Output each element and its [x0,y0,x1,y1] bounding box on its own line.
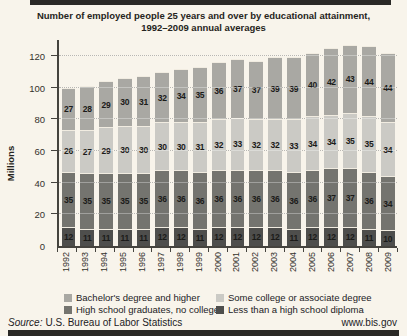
segment-value-label: 32 [252,140,261,150]
x-tick-label-2003: 2003 [265,252,284,288]
x-tick-label-2001: 2001 [227,252,246,288]
segment: 36 [231,170,245,227]
segment-value-label: 33 [233,139,242,149]
segment-value-label: 11 [83,233,91,243]
segment-value-label: 36 [289,196,298,206]
segment-value-label: 12 [233,232,242,242]
segment: 33 [231,118,245,170]
top-border-rule [30,0,391,5]
legend-label: Some college or associate degree [228,292,372,304]
legend-label: High school graduates, no college [76,304,219,316]
source-text: U.S. Bureau of Labor Statistics [45,317,182,328]
x-tick-label-1996: 1996 [133,252,152,288]
bar-1996: 11353031 [137,76,151,246]
segment: 40 [306,53,320,116]
segment-value-label: 11 [196,233,204,243]
x-tick-label-1994: 1994 [95,252,114,288]
segment: 35 [80,173,94,228]
segment-value-label: 35 [102,196,111,206]
segment-value-label: 35 [364,139,373,149]
x-tick-mark [397,248,398,252]
segment-value-label: 44 [364,77,373,87]
segment-value-label: 12 [64,232,73,242]
bar-1993: 11352728 [80,86,94,246]
y-tick-label-60: 60 [34,146,45,157]
segment-value-label: 40 [308,80,317,90]
bar-2001: 12363337 [231,59,245,246]
segment: 35 [62,172,76,227]
y-tick-label-120: 120 [29,51,45,62]
segment-value-label: 32 [158,93,167,103]
y-tick-label-100: 100 [29,83,45,94]
x-tick-label-1993: 1993 [76,252,95,288]
bar-2005: 12363440 [306,53,320,246]
legend-item: Bachelor's degree and higher [64,292,216,304]
segment: 35 [99,173,113,228]
segment-value-label: 12 [308,232,317,242]
segment-value-label: 30 [177,142,186,152]
x-tick-label-1998: 1998 [170,252,189,288]
segment-value-label: 37 [233,84,242,94]
bottom-border-rule [8,330,399,336]
segment: 11 [287,229,301,246]
x-tick-label-1992: 1992 [57,252,76,288]
segment: 37 [249,61,263,120]
legend-item: Less than a high school diploma [216,304,407,316]
chart-title: Number of employed people 25 years and o… [0,10,407,34]
segment-value-label: 35 [64,195,73,205]
segment: 36 [155,170,169,227]
bar-2009: 10343444 [381,53,395,246]
segment-value-label: 11 [121,233,129,243]
legend-label: Bachelor's degree and higher [76,292,200,304]
segment-value-label: 35 [120,196,129,206]
chart-title-line2: 1992–2009 annual averages [0,22,407,34]
segment: 30 [155,122,169,170]
segment-value-label: 34 [327,137,336,147]
segment-value-label: 26 [64,146,73,156]
segment-value-label: 35 [83,196,92,206]
segment-value-label: 42 [327,77,336,87]
segment-value-label: 43 [346,74,355,84]
legend-swatch-icon [64,306,72,314]
segment-value-label: 12 [252,232,261,242]
segment-value-label: 35 [195,90,204,100]
x-tick-label-2007: 2007 [340,252,359,288]
segment: 11 [137,229,151,246]
legend-swatch-icon [216,306,224,314]
segment-value-label: 12 [177,232,186,242]
segment-value-label: 30 [120,97,129,107]
segment-value-label: 36 [214,194,223,204]
segment: 39 [287,57,301,119]
segment: 29 [99,127,113,173]
bar-2002: 12363237 [249,61,263,246]
y-axis: 020406080100120 [0,40,57,246]
segment-value-label: 12 [327,232,336,242]
segment: 44 [362,46,376,116]
segment-value-label: 36 [271,194,280,204]
legend-label: Less than a high school diploma [228,304,364,316]
segment: 31 [137,76,151,125]
bar-2008: 11363544 [362,46,376,246]
stacked-bars: 1235262711352728113529291135303011353031… [59,40,397,246]
segment: 12 [174,227,188,246]
x-tick-label-1999: 1999 [189,252,208,288]
segment-value-label: 39 [271,84,280,94]
segment-value-label: 36 [177,194,186,204]
segment-value-label: 27 [83,147,92,157]
segment: 36 [362,172,376,229]
segment-value-label: 36 [364,196,373,206]
legend-row-2: High school graduates, no collegeLess th… [64,304,407,316]
segment: 34 [381,176,395,230]
segment-value-label: 39 [289,84,298,94]
segment-value-label: 35 [346,136,355,146]
segment: 11 [193,229,207,246]
segment-value-label: 28 [83,104,92,114]
segment-value-label: 36 [252,194,261,204]
segment-value-label: 34 [308,139,317,149]
segment: 32 [155,72,169,123]
segment: 27 [80,130,94,173]
segment-value-label: 31 [139,97,148,107]
segment-value-label: 37 [327,193,336,203]
segment-value-label: 12 [346,232,355,242]
bar-2007: 12373543 [343,45,357,246]
